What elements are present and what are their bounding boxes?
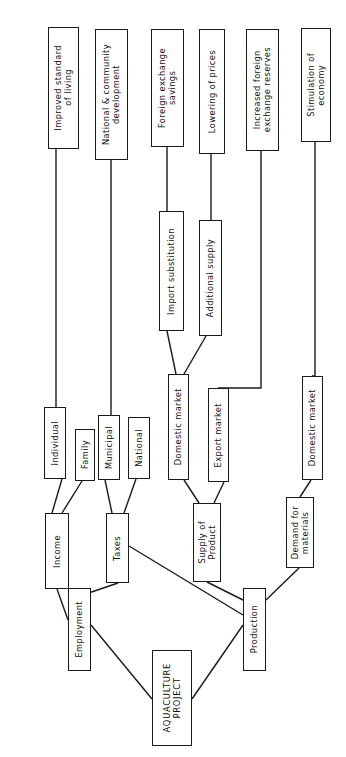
edge-income-to-individual — [52, 479, 62, 513]
edge-aquaculture_project-to-employment — [91, 625, 152, 699]
node-income[interactable]: Income — [45, 513, 69, 589]
node-label-import_substitution: Import substitution — [166, 228, 176, 315]
edge-taxes-to-national — [124, 479, 136, 513]
node-label-supply_of_product: Supply of Product — [197, 521, 217, 564]
node-export_market[interactable]: Export market — [208, 388, 229, 482]
node-label-production: Production — [249, 605, 259, 653]
node-supply_of_product[interactable]: Supply of Product — [193, 503, 221, 582]
node-aquaculture_project[interactable]: AQUACULTURE PROJECT — [152, 650, 192, 746]
edge-domestic_market_supply-to-additional_supply — [184, 336, 206, 374]
node-domestic_market_supply[interactable]: Domestic market — [168, 374, 189, 480]
edge-production-to-taxes — [129, 546, 243, 615]
node-label-lowering_prices: Lowering of prices — [207, 50, 217, 133]
edge-production-to-supply_of_product — [207, 582, 243, 600]
node-label-national_community: National & community development — [101, 44, 121, 145]
node-label-aquaculture_project: AQUACULTURE PROJECT — [162, 663, 183, 732]
edge-production-to-demand_for_materials — [266, 568, 299, 600]
edge-export_market-to-increased_fx_reserves — [218, 151, 261, 388]
node-demand_for_materials[interactable]: Demand for materials — [286, 497, 314, 568]
node-import_substitution[interactable]: Import substitution — [159, 211, 184, 331]
node-label-taxes: Taxes — [112, 536, 122, 561]
node-label-family: Family — [80, 440, 90, 469]
node-municipal[interactable]: Municipal — [98, 415, 120, 480]
node-label-employment: Employment — [74, 601, 84, 658]
node-improved_standard[interactable]: Improved standard of living — [48, 27, 79, 149]
edge-income-to-family — [62, 481, 82, 513]
edge-aquaculture_project-to-production — [192, 625, 243, 699]
node-label-foreign_exchange_sav: Foreign exchange savings — [157, 48, 177, 128]
node-label-stimulation_economy: Stimulation of economy — [306, 53, 326, 117]
node-label-improved_standard: Improved standard of living — [53, 45, 73, 131]
edge-supply_of_product-to-export_market — [214, 482, 224, 503]
node-family[interactable]: Family — [75, 429, 95, 481]
node-label-municipal: Municipal — [104, 426, 114, 469]
node-foreign_exchange_sav[interactable]: Foreign exchange savings — [151, 29, 184, 147]
node-label-export_market: Export market — [213, 403, 223, 467]
node-stimulation_economy[interactable]: Stimulation of economy — [301, 28, 331, 142]
node-label-domestic_market_demand: Domestic market — [307, 389, 317, 466]
node-production[interactable]: Production — [243, 588, 266, 671]
node-lowering_prices[interactable]: Lowering of prices — [199, 29, 225, 154]
node-increased_fx_reserves[interactable]: Increased foreign exchange reserves — [246, 29, 279, 151]
edge-supply_of_product-to-domestic_market_supply — [184, 480, 199, 503]
node-label-individual: Individual — [50, 421, 60, 465]
node-taxes[interactable]: Taxes — [106, 513, 129, 583]
edge-demand_for_materials-to-domestic_market_demand — [300, 480, 311, 497]
edge-taxes-to-municipal — [105, 480, 112, 513]
node-label-additional_supply: Additional supply — [205, 239, 215, 317]
edge-domestic_market_supply-to-import_substitution — [167, 331, 176, 374]
node-label-demand_for_materials: Demand for materials — [290, 506, 310, 559]
node-label-income: Income — [52, 535, 62, 568]
node-national[interactable]: National — [128, 417, 150, 479]
node-label-increased_fx_reserves: Increased foreign exchange reserves — [252, 47, 272, 132]
node-label-national: National — [134, 429, 144, 467]
node-domestic_market_demand[interactable]: Domestic market — [302, 376, 323, 480]
edge-employment-to-income — [57, 589, 68, 620]
node-label-domestic_market_supply: Domestic market — [173, 388, 183, 465]
node-individual[interactable]: Individual — [44, 407, 66, 479]
diagram-canvas: Improved standard of livingNational & co… — [0, 0, 346, 757]
node-employment[interactable]: Employment — [68, 588, 91, 671]
node-additional_supply[interactable]: Additional supply — [199, 220, 222, 336]
node-national_community[interactable]: National & community development — [95, 29, 128, 160]
edge-domestic_market_demand-to-stimulation_economy — [312, 142, 315, 376]
